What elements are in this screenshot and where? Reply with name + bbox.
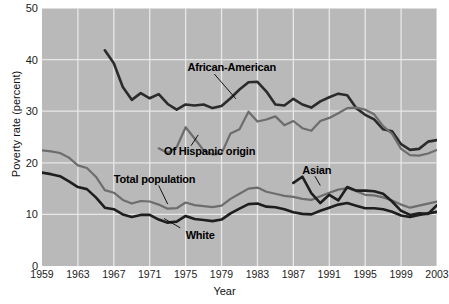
x-axis-tick-label: 1967 xyxy=(94,268,134,280)
x-axis-tick-label: 1995 xyxy=(345,268,385,280)
x-axis-tick-label: 1963 xyxy=(58,268,98,280)
leader-line-asian xyxy=(315,176,320,185)
series-label-asian: Asian xyxy=(302,164,331,176)
series-label-total-population: Total population xyxy=(114,173,196,185)
series-label-african-american: African-American xyxy=(187,61,276,73)
series-label-of-hispanic-origin: Of Hispanic origin xyxy=(164,145,255,157)
x-axis-tick-label: 2003 xyxy=(417,268,449,280)
y-axis-title: Poverty rate (percent) xyxy=(10,54,22,194)
series-label-white: White xyxy=(186,229,215,241)
x-axis-tick-label: 1979 xyxy=(202,268,242,280)
leader-line-total-population xyxy=(159,186,168,205)
x-axis-tick-label: 1991 xyxy=(309,268,349,280)
poverty-rate-line-chart: 01020304050 1959196319671971197519791983… xyxy=(0,0,449,304)
x-axis-tick-label: 1983 xyxy=(237,268,277,280)
x-axis-tick-label: 1975 xyxy=(166,268,206,280)
series-line-total-population xyxy=(42,150,437,208)
x-axis-tick-label: 1971 xyxy=(130,268,170,280)
x-axis-tick-label: 1959 xyxy=(22,268,62,280)
chart-svg xyxy=(42,8,437,266)
series-line-white xyxy=(42,173,437,223)
plot-area xyxy=(42,8,437,266)
x-axis-tick-label: 1987 xyxy=(273,268,313,280)
x-axis-title: Year xyxy=(0,285,449,297)
x-axis-tick-label: 1999 xyxy=(381,268,421,280)
leader-line-african-american xyxy=(214,74,236,99)
y-axis-title-wrap: Poverty rate (percent) xyxy=(0,0,14,304)
